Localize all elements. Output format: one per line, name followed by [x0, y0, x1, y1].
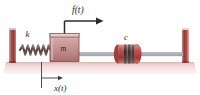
mass-label: m [61, 44, 67, 53]
force-arrow [65, 18, 104, 34]
applied-force-label: f(t) [72, 5, 84, 16]
left-wall [9, 28, 16, 63]
damping-coefficient-label: c [124, 32, 128, 42]
floor [3, 62, 197, 74]
right-wall [182, 28, 189, 63]
diagram-canvas: k m c f(t) [0, 0, 200, 95]
spring-stiffness-label: k [26, 29, 31, 39]
damper [114, 45, 141, 64]
mass-spring-damper-figure: k m c f(t) [0, 0, 200, 95]
displacement-label: x(t) [53, 83, 67, 93]
spring [16, 45, 53, 55]
